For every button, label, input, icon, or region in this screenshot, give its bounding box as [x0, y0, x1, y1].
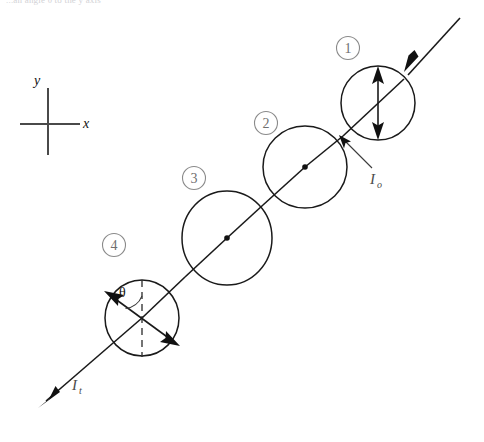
badge-3: 3 — [183, 167, 206, 190]
angle-theta-label: θ — [119, 285, 126, 300]
beam-transmitted-arrowhead — [38, 386, 60, 408]
y-axis-label: y — [32, 73, 41, 88]
badge-4-label: 4 — [111, 238, 118, 253]
incident-intensity-subscript: o — [377, 179, 382, 190]
beam-segment-incident — [408, 18, 460, 75]
polarizer-3[interactable] — [182, 191, 272, 285]
beam-segment-2-inside — [263, 167, 305, 205]
polarizer-4-angle-arc — [126, 296, 143, 309]
polarizer-4[interactable]: θ — [104, 280, 180, 357]
badge-3-label: 3 — [191, 171, 198, 186]
optics-diagram: ...an angle θ to the y axis y x — [0, 0, 484, 442]
x-axis-label: x — [82, 116, 90, 131]
beam-segment-transmitted — [46, 318, 142, 401]
incident-intensity-leader-line — [345, 141, 372, 168]
polarizer-2-center-dot — [302, 164, 308, 170]
badge-4: 4 — [103, 234, 126, 257]
incident-intensity-label: I — [369, 171, 376, 187]
badge-1-label: 1 — [345, 41, 352, 56]
beam-segment-2-to-3 — [227, 205, 263, 238]
beam-segment-1-inside — [343, 79, 404, 136]
badge-2-label: 2 — [263, 116, 270, 131]
polarizer-2[interactable] — [263, 126, 347, 208]
transmitted-intensity-subscript: t — [79, 385, 82, 396]
polarizer-3-center-dot — [224, 235, 230, 241]
transmitted-intensity-label: I — [71, 377, 78, 393]
badge-1: 1 — [337, 37, 360, 60]
badge-2: 2 — [255, 112, 278, 135]
incident-intensity-callout: I o — [339, 135, 382, 190]
beam-path — [38, 18, 460, 408]
beam-incident-arrowhead — [404, 50, 419, 72]
beam-segment-3-inside — [185, 238, 227, 277]
coordinate-axes: y x — [20, 73, 90, 155]
figure-canvas: y x — [0, 0, 484, 442]
polarizer-1[interactable] — [341, 66, 415, 140]
transmitted-intensity-callout: I t — [71, 377, 82, 396]
